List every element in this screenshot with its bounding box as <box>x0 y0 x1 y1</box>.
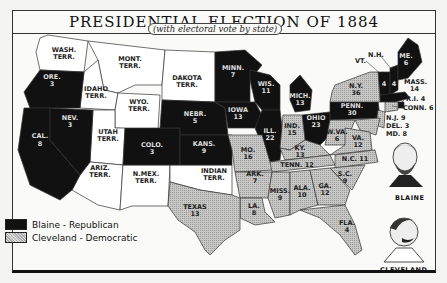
blaine-caption: BLAINE <box>395 194 424 202</box>
democratic-swatch <box>5 232 27 243</box>
votes-ill: 22 <box>265 134 274 142</box>
label-nmex-terr: TERR. <box>135 177 156 185</box>
votes-iowa: 13 <box>233 113 242 121</box>
votes-colo: 3 <box>150 148 155 156</box>
votes-mass: 14 <box>410 85 420 93</box>
blaine-portrait <box>383 137 427 197</box>
label-del: DEL. 3 <box>386 122 409 130</box>
legend-label-democratic: Cleveland - Democratic <box>32 233 137 243</box>
label-wash-terr: TERR. <box>53 53 74 61</box>
votes-ind: 15 <box>287 129 297 137</box>
votes-mo: 16 <box>243 153 253 161</box>
votes-ohio: 23 <box>311 121 320 129</box>
votes-vt: 4 <box>382 80 387 88</box>
votes-nev: 3 <box>68 121 73 129</box>
label-utah-terr: TERR. <box>97 135 118 143</box>
label-vt: VT. <box>355 57 366 65</box>
state-fla <box>300 205 362 255</box>
map-subtitle: (with electoral vote by state) <box>148 23 282 35</box>
label-dakota-terr: TERR. <box>176 81 197 89</box>
votes-cal: 8 <box>38 140 43 148</box>
votes-nebr: 5 <box>193 117 198 125</box>
votes-ny: 36 <box>351 89 361 97</box>
label-wyo-terr: TERR. <box>128 105 149 113</box>
votes-miss: 9 <box>278 194 283 202</box>
label-ariz-terr: TERR. <box>89 171 110 179</box>
votes-texas: 13 <box>190 210 199 218</box>
label-conn: CONN. 6 <box>403 104 434 112</box>
votes-ga: 12 <box>320 189 329 197</box>
label-ri: R.I. 4 <box>406 95 426 103</box>
votes-mich: 13 <box>295 99 304 107</box>
votes-penn: 30 <box>347 109 357 117</box>
cleveland-caption: CLEVELAND <box>380 266 427 274</box>
votes-fla: 4 <box>345 226 350 234</box>
label-nj: N.J. 9 <box>386 114 406 122</box>
votes-wva: 6 <box>335 135 340 143</box>
votes-me: 6 <box>404 59 409 67</box>
label-idaho-terr: TERR. <box>85 92 106 100</box>
votes-ore: 3 <box>50 80 55 88</box>
votes-minn: 7 <box>231 71 236 79</box>
votes-ky: 13 <box>295 151 304 159</box>
republican-swatch <box>5 219 27 230</box>
votes-sc: 9 <box>343 177 348 185</box>
votes-ark: 7 <box>253 177 258 185</box>
votes-nh: 4 <box>392 80 397 88</box>
label-indian-terr: TERR. <box>203 174 224 182</box>
votes-va: 12 <box>353 141 362 149</box>
votes-la: 8 <box>252 209 257 217</box>
legend-item-democratic: Cleveland - Democratic <box>5 231 137 244</box>
votes-wis: 11 <box>261 87 271 95</box>
votes-kans: 9 <box>202 147 207 155</box>
legend: Blaine - Republican Cleveland - Democrat… <box>5 218 137 244</box>
label-mont-terr: TERR. <box>119 62 140 70</box>
votes-ala: 10 <box>297 191 307 199</box>
label-nh: N.H. <box>368 51 384 59</box>
label-nc: N.C. 11 <box>342 155 369 163</box>
label-cal: CAL. <box>32 132 48 140</box>
legend-item-republican: Blaine - Republican <box>5 218 137 231</box>
legend-label-republican: Blaine - Republican <box>32 220 119 230</box>
state-conn <box>385 102 398 112</box>
cleveland-portrait <box>378 212 428 266</box>
label-tenn: TENN. 12 <box>280 161 314 169</box>
